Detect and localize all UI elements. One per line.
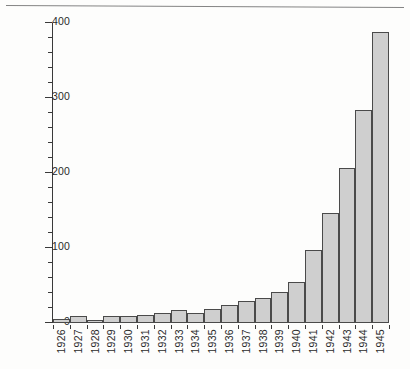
plot-area: 0100200300400 19261927192819291930193119…: [52, 20, 390, 325]
x-axis-tick-labels: 1926192719281929193019311932193319341935…: [53, 325, 389, 369]
x-axis-tick-label-1927: 1927: [73, 329, 84, 354]
bar-1942: [322, 213, 339, 323]
x-axis-tick-label-1928: 1928: [90, 329, 101, 354]
y-axis-major-tick: [45, 97, 52, 98]
x-axis-tick: [137, 325, 138, 329]
x-axis-tick: [305, 325, 306, 329]
x-axis-tick: [322, 325, 323, 329]
y-axis-minor-tick: [48, 127, 52, 128]
x-axis-tick: [339, 325, 340, 329]
y-axis-minor-tick: [48, 307, 52, 308]
bar-1943: [339, 168, 356, 323]
x-axis-tick-label-1929: 1929: [106, 329, 117, 354]
x-axis-tick-label-1937: 1937: [241, 329, 252, 354]
bar-1926: [53, 319, 70, 323]
x-axis-tick-label-1939: 1939: [274, 329, 285, 354]
bar-1930: [120, 316, 137, 323]
y-axis-minor-tick: [48, 262, 52, 263]
y-axis-minor-tick: [48, 112, 52, 113]
x-axis-tick-label-1930: 1930: [123, 329, 134, 354]
x-axis-tick: [171, 325, 172, 329]
y-axis-minor-tick: [48, 292, 52, 293]
x-axis-tick: [53, 325, 54, 329]
y-axis-major-tick: [45, 247, 52, 248]
x-axis-tick-label-1945: 1945: [375, 329, 386, 354]
bar-1932: [154, 313, 171, 324]
bar-1931: [137, 315, 154, 323]
top-divider-rule: [6, 5, 404, 8]
bar-1944: [355, 110, 372, 323]
y-axis-minor-tick: [48, 67, 52, 68]
bar-1927: [70, 316, 87, 323]
x-axis-tick-label-1942: 1942: [325, 329, 336, 354]
x-axis-tick: [221, 325, 222, 329]
bar-1940: [288, 282, 305, 323]
bar-1935: [204, 309, 221, 323]
bar-1928: [87, 320, 104, 323]
bar-1938: [255, 298, 272, 323]
y-axis-major-tick: [45, 322, 52, 323]
x-axis-tick: [255, 325, 256, 329]
y-axis-major-tick: [45, 172, 52, 173]
x-axis-tick-label-1932: 1932: [157, 329, 168, 354]
x-axis-tick: [389, 325, 390, 329]
bar-1929: [103, 316, 120, 323]
x-axis-tick-label-1926: 1926: [56, 329, 67, 354]
y-axis-minor-tick: [48, 157, 52, 158]
x-axis-tick-label-1943: 1943: [342, 329, 353, 354]
x-axis-tick-label-1934: 1934: [190, 329, 201, 354]
y-axis-minor-tick: [48, 232, 52, 233]
y-axis-minor-tick: [48, 52, 52, 53]
x-axis-tick: [87, 325, 88, 329]
y-axis-minor-tick: [48, 82, 52, 83]
x-axis-tick-label-1936: 1936: [224, 329, 235, 354]
bar-1937: [238, 301, 255, 323]
x-axis-tick: [238, 325, 239, 329]
x-axis-tick-label-1931: 1931: [140, 329, 151, 354]
x-axis-tick: [154, 325, 155, 329]
x-axis-tick-label-1944: 1944: [358, 329, 369, 354]
x-axis-tick-label-1941: 1941: [308, 329, 319, 354]
x-axis-tick-label-1940: 1940: [291, 329, 302, 354]
y-axis-minor-tick: [48, 187, 52, 188]
y-axis-major-tick: [45, 22, 52, 23]
x-axis-tick-label-1938: 1938: [258, 329, 269, 354]
bar-1934: [187, 313, 204, 324]
y-axis-minor-tick: [48, 142, 52, 143]
bar-1933: [171, 310, 188, 324]
chart-figure: 0100200300400 19261927192819291930193119…: [0, 0, 410, 369]
bar-1936: [221, 305, 238, 323]
y-axis-minor-tick: [48, 277, 52, 278]
bar-1939: [271, 292, 288, 324]
bar-1945: [372, 32, 389, 323]
y-axis-minor-tick: [48, 217, 52, 218]
x-axis-tick: [70, 325, 71, 329]
bar-1941: [305, 250, 322, 324]
bar-series: [53, 20, 389, 323]
y-axis-minor-tick: [48, 202, 52, 203]
y-axis-minor-tick: [48, 37, 52, 38]
x-axis-tick-label-1933: 1933: [174, 329, 185, 354]
x-axis-tick-label-1935: 1935: [207, 329, 218, 354]
